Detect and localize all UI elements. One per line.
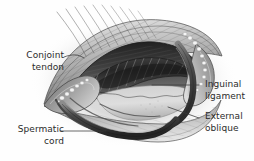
label-conjoint-tendon-line1: Conjoint: [8, 50, 64, 62]
label-external-oblique-line2: oblique: [205, 123, 254, 135]
label-external-oblique: External oblique: [205, 111, 254, 134]
label-conjoint-tendon-line2: tendon: [8, 62, 64, 74]
label-inguinal-ligament-line2: ligament: [205, 91, 254, 103]
anatomy-figure: Conjoint tendon Spermatic cord Inguinal …: [0, 0, 254, 161]
label-spermatic-cord: Spermatic cord: [2, 124, 64, 147]
label-conjoint-tendon: Conjoint tendon: [8, 50, 64, 73]
label-spermatic-cord-line2: cord: [2, 136, 64, 148]
label-inguinal-ligament: Inguinal ligament: [205, 79, 254, 102]
label-spermatic-cord-line1: Spermatic: [2, 124, 64, 136]
label-inguinal-ligament-line1: Inguinal: [205, 79, 254, 91]
label-external-oblique-line1: External: [205, 111, 254, 123]
